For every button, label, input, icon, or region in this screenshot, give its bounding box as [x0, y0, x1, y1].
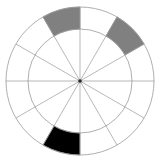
- radial-spoke: [80, 81, 117, 145]
- radial-spoke: [16, 81, 80, 118]
- radial-spoke: [80, 44, 144, 81]
- polar-chart-canvas: [0, 0, 161, 163]
- center-dot: [78, 79, 82, 83]
- sector-wedge: [43, 126, 80, 155]
- radial-spoke: [80, 81, 144, 118]
- radial-spoke: [16, 44, 80, 81]
- polar-sector-chart: [0, 0, 161, 163]
- radial-spoke: [80, 17, 117, 81]
- sector-wedge: [43, 7, 80, 36]
